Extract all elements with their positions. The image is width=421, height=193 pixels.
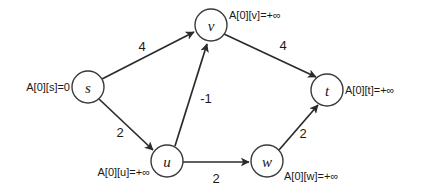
node-label-w: w xyxy=(262,154,272,170)
node-u: u xyxy=(151,145,183,177)
edge-weight-w-t: 2 xyxy=(299,126,306,141)
edge-s-v xyxy=(102,32,194,79)
node-v: v xyxy=(195,9,227,41)
node-label-v: v xyxy=(208,18,215,34)
graph-canvas: 4 2 -1 2 4 2 s v t u xyxy=(0,0,421,193)
graph-diagram: 4 2 -1 2 4 2 s v t u xyxy=(0,0,421,193)
node-label-s: s xyxy=(85,80,91,96)
node-label-u: u xyxy=(163,154,171,170)
edge-weight-u-v: -1 xyxy=(200,91,212,106)
node-s: s xyxy=(72,71,104,103)
node-w: w xyxy=(251,145,283,177)
distance-label-t: A[0][t]=+∞ xyxy=(345,84,394,96)
distance-label-w: A[0][w]=+∞ xyxy=(284,170,338,182)
edge-s-u xyxy=(99,99,153,150)
edge-weight-v-t: 4 xyxy=(279,38,286,53)
node-t: t xyxy=(311,74,343,106)
edge-v-t xyxy=(224,34,316,77)
edge-weight-u-w: 2 xyxy=(212,171,219,186)
distance-label-s: A[0][s]=0 xyxy=(26,81,70,93)
edge-weight-s-v: 4 xyxy=(138,39,145,54)
distance-label-v: A[0][v]=+∞ xyxy=(229,9,281,21)
edge-weight-s-u: 2 xyxy=(116,125,123,140)
distance-label-u: A[0][u]=+∞ xyxy=(98,166,151,178)
